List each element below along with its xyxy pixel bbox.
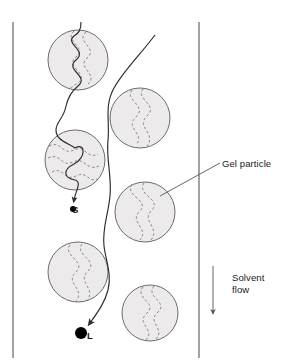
gel-filtration-diagram: Gel particle Solventflow S L bbox=[0, 0, 297, 363]
large-molecule-label: L bbox=[87, 330, 93, 342]
gel-particle-low-right bbox=[122, 285, 178, 341]
gel-particles bbox=[45, 30, 178, 341]
solvent-flow-label: Solventflow bbox=[232, 272, 264, 295]
gel-particle-mid-right bbox=[115, 182, 175, 242]
gel-particle-label: Gel particle bbox=[222, 158, 271, 170]
diagram-canvas bbox=[0, 0, 297, 363]
large-molecule-dot bbox=[75, 327, 87, 339]
gel-particle-top-left bbox=[48, 30, 108, 90]
gel-particle-mid-left bbox=[45, 130, 105, 190]
gel-particle-leader-line bbox=[160, 163, 220, 196]
solvent-flow-label-line2: flow bbox=[232, 284, 249, 295]
gel-particle-top-right bbox=[110, 88, 170, 148]
small-molecule-label: S bbox=[72, 204, 78, 216]
gel-particle-low-left bbox=[48, 242, 108, 302]
solvent-flow-label-line1: Solvent bbox=[232, 272, 264, 283]
